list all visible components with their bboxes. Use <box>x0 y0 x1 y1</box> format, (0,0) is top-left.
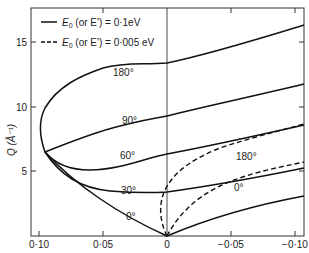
y-tick-label: 15 <box>16 37 28 48</box>
curve-90deg-0.1ev <box>45 84 304 152</box>
label-30deg-solid: 30° <box>121 185 136 196</box>
y-tick-label: 10 <box>16 102 28 113</box>
x-tick-label: 0·10 <box>29 239 49 250</box>
label-60deg-solid: 60° <box>120 150 135 161</box>
legend-solid-label: E0 (or E′) = 0·1eV <box>62 17 141 29</box>
y-axis-label: Q (Å⁻¹) <box>5 124 17 156</box>
label-180deg-dashed: 180° <box>236 151 257 162</box>
curve-0deg-0.1ev <box>45 152 304 236</box>
curve-0deg-0.005ev <box>167 162 304 236</box>
y-tick-label: 5 <box>21 166 27 177</box>
label-90deg-solid: 90° <box>122 115 137 126</box>
curve-60deg-0.1ev <box>45 125 304 170</box>
x-tick-label: 0·05 <box>93 239 113 250</box>
label-180deg-solid: 180° <box>113 67 134 78</box>
label-0deg-dashed: 0° <box>234 182 244 193</box>
y-ticks <box>31 42 304 171</box>
x-tick-label: 0 <box>164 239 170 250</box>
label-0deg-solid: 0° <box>126 211 136 222</box>
x-tick-label: −0·05 <box>218 239 244 250</box>
x-tick-label: −0·10 <box>282 239 308 250</box>
chart: 5 10 15 0·10 0·05 0 −0·05 −0·10 Q (Å⁻¹) … <box>0 0 309 253</box>
legend-dashed-label: E0 (or E′) = 0·005 eV <box>62 37 155 49</box>
legend: E0 (or E′) = 0·1eV E0 (or E′) = 0·005 eV <box>41 17 155 49</box>
